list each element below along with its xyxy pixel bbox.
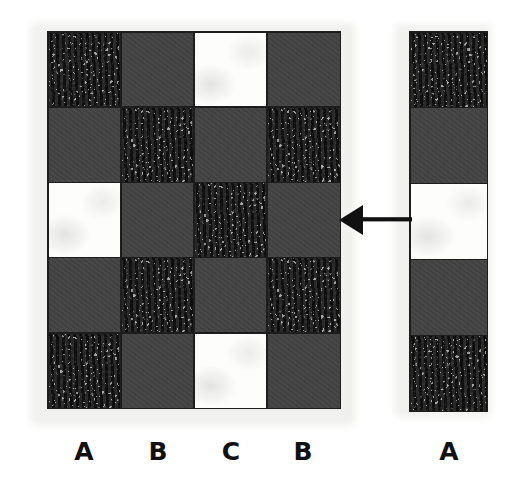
main-column-label-2: B: [138, 437, 178, 466]
side-cell-r4c1: [411, 260, 487, 334]
texture-grain-layer: [49, 33, 121, 107]
main-cell-r4c2: [122, 258, 194, 332]
main-cell-r5c1: [49, 334, 121, 408]
main-cell-r3c1: [49, 183, 121, 257]
main-cell-r1c3: [195, 33, 267, 107]
main-column-label-1: A: [64, 437, 104, 466]
main-cell-r5c2: [122, 334, 194, 408]
main-column-label-4: B: [283, 437, 323, 466]
main-cell-r1c1: [49, 33, 121, 107]
arrow-shaft: [362, 217, 412, 221]
main-cell-r3c3: [195, 183, 267, 257]
main-checkerboard: [47, 31, 341, 409]
texture-grain-layer: [195, 183, 267, 257]
texture-grain-layer: [268, 108, 340, 182]
main-cell-r2c2: [122, 108, 194, 182]
texture-grain-layer: [122, 258, 194, 332]
main-cell-r2c3: [195, 108, 267, 182]
main-cell-r1c2: [122, 33, 194, 107]
main-cell-r4c1: [49, 258, 121, 332]
main-cell-r5c4: [268, 334, 340, 408]
transfer-arrow: [338, 203, 412, 237]
texture-grain-layer: [411, 33, 487, 107]
figure-canvas: ABCB A: [0, 0, 514, 495]
texture-grain-layer: [268, 258, 340, 332]
side-cell-r1c1: [411, 33, 487, 107]
main-cell-r2c1: [49, 108, 121, 182]
main-cell-r2c4: [268, 108, 340, 182]
main-column-label-3: C: [211, 437, 251, 466]
texture-grain-layer: [122, 108, 194, 182]
arrow-head-icon: [339, 205, 363, 235]
reference-column: [409, 31, 488, 412]
side-cell-r3c1: [411, 184, 487, 258]
main-cell-r5c3: [195, 334, 267, 408]
main-cell-r1c4: [268, 33, 340, 107]
main-cell-r3c2: [122, 183, 194, 257]
texture-grain-layer: [411, 336, 487, 410]
main-cell-r3c4: [268, 183, 340, 257]
main-cell-r4c4: [268, 258, 340, 332]
side-column-label-1: A: [429, 437, 469, 466]
main-cell-r4c3: [195, 258, 267, 332]
side-cell-r2c1: [411, 108, 487, 182]
side-cell-r5c1: [411, 336, 487, 410]
texture-grain-layer: [49, 334, 121, 408]
